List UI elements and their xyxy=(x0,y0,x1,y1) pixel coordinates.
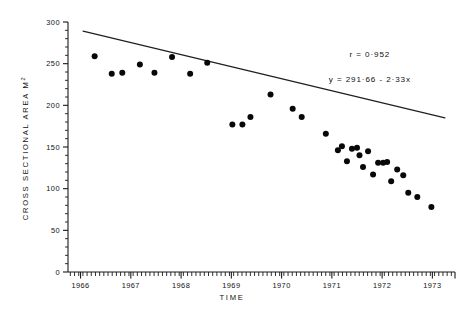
data-point xyxy=(204,60,210,66)
data-point xyxy=(365,148,371,154)
y-tick-label: 200 xyxy=(46,101,60,110)
x-tick-label: 1971 xyxy=(323,281,341,290)
annotation-correlation: r = 0·952 xyxy=(349,50,390,59)
x-tick-label: 1967 xyxy=(122,281,140,290)
data-point xyxy=(405,190,411,196)
data-point xyxy=(428,204,434,210)
axis-ticks xyxy=(63,22,455,279)
data-point xyxy=(299,114,305,120)
x-axis-title: TIME xyxy=(220,293,245,302)
data-point xyxy=(109,71,115,77)
y-tick-label: 50 xyxy=(51,226,60,235)
scatter-chart: 0501001502002503001966196719681969197019… xyxy=(0,0,474,320)
data-point xyxy=(414,194,420,200)
data-point xyxy=(247,114,253,120)
chart-page: 0501001502002503001966196719681969197019… xyxy=(0,0,474,320)
y-axis-title: CROSS SECTIONAL AREA M2 xyxy=(20,76,30,220)
x-tick-label: 1973 xyxy=(423,281,441,290)
svg-text:CROSS SECTIONAL AREA M2: CROSS SECTIONAL AREA M2 xyxy=(20,76,30,220)
data-point xyxy=(394,167,400,173)
y-tick-label: 0 xyxy=(55,268,60,277)
data-point xyxy=(229,122,235,128)
data-point xyxy=(370,172,376,178)
data-point xyxy=(349,146,355,152)
y-tick-label: 300 xyxy=(46,18,60,27)
data-point xyxy=(339,143,345,149)
data-point xyxy=(151,70,157,76)
data-point xyxy=(384,159,390,165)
data-point xyxy=(344,158,350,164)
data-point xyxy=(354,145,360,151)
data-point xyxy=(290,106,296,112)
x-tick-label: 1969 xyxy=(222,281,240,290)
x-tick-label: 1972 xyxy=(373,281,391,290)
chart-annotations: r = 0·952y = 291·66 - 2·33x xyxy=(329,50,411,84)
data-point xyxy=(239,122,245,128)
data-point xyxy=(357,152,363,158)
data-point xyxy=(187,71,193,77)
annotation-regression-equation: y = 291·66 - 2·33x xyxy=(329,75,411,84)
data-point xyxy=(119,70,125,76)
data-point xyxy=(360,164,366,170)
data-point xyxy=(137,62,143,68)
data-point xyxy=(388,178,394,184)
data-point xyxy=(92,53,98,59)
data-point xyxy=(268,92,274,98)
y-tick-label: 150 xyxy=(46,143,60,152)
x-tick-label: 1966 xyxy=(71,281,89,290)
data-point xyxy=(323,131,329,137)
y-tick-label: 250 xyxy=(46,59,60,68)
x-tick-label: 1970 xyxy=(272,281,290,290)
axes xyxy=(68,22,455,272)
x-tick-label: 1968 xyxy=(172,281,190,290)
y-tick-label: 100 xyxy=(46,184,60,193)
data-point xyxy=(400,172,406,178)
data-point xyxy=(169,54,175,60)
